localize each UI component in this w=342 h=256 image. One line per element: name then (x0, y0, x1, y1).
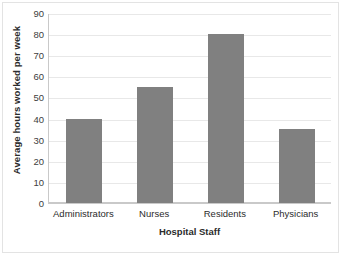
bars-layer (49, 14, 331, 203)
bar (66, 119, 102, 203)
category-label: Physicians (260, 207, 331, 221)
y-tick-label: 10 (4, 178, 44, 188)
bar (208, 34, 244, 203)
y-tick-label: 50 (4, 93, 44, 103)
category-label: Nurses (119, 207, 190, 221)
bar (137, 87, 173, 203)
gridline (49, 204, 331, 205)
y-tick-label: 0 (4, 199, 44, 209)
x-axis-title: Hospital Staff (48, 226, 331, 238)
category-label: Residents (190, 207, 261, 221)
y-axis-tick-labels: 0102030405060708090 (0, 14, 44, 204)
x-axis-category-labels: AdministratorsNursesResidentsPhysicians (48, 207, 331, 223)
bar-chart-figure: Average hours worked per week 0102030405… (0, 0, 342, 256)
y-tick-label: 80 (4, 30, 44, 40)
y-tick-label: 40 (4, 115, 44, 125)
y-tick-label: 60 (4, 72, 44, 82)
bar (279, 129, 315, 203)
y-tick-label: 20 (4, 157, 44, 167)
category-label: Administrators (48, 207, 119, 221)
y-tick-label: 90 (4, 9, 44, 19)
y-tick-label: 30 (4, 136, 44, 146)
plot-area (48, 14, 331, 204)
y-tick-label: 70 (4, 51, 44, 61)
